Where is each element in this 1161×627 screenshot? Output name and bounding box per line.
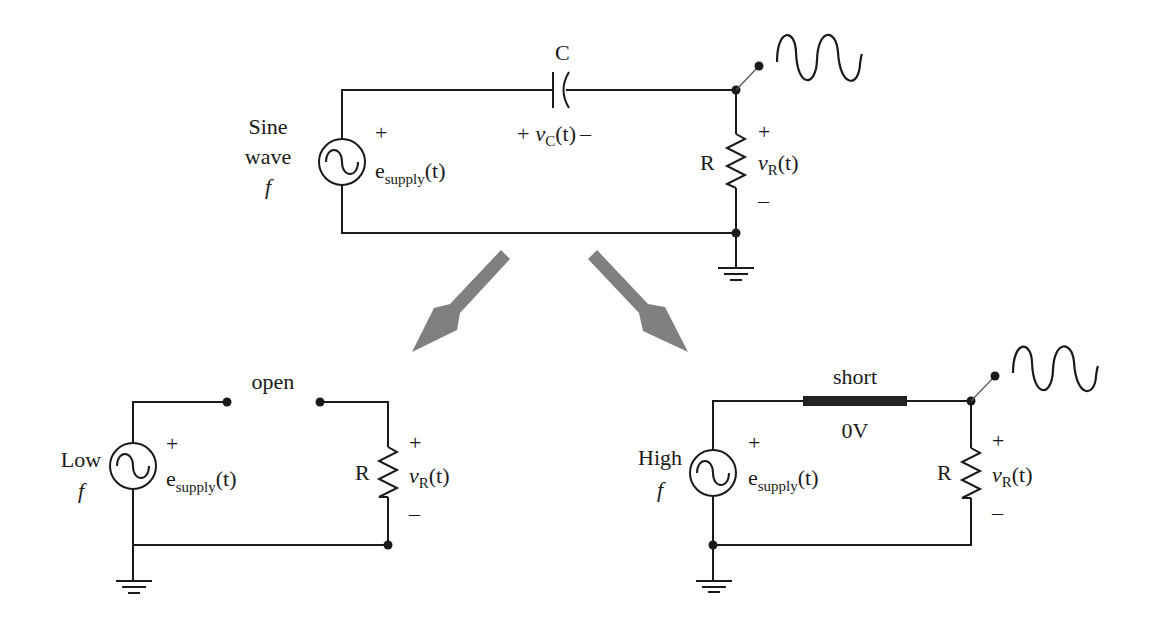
high-top-wire-right bbox=[907, 401, 971, 448]
resistor-icon bbox=[727, 134, 745, 188]
top-circuit: C +vC(t)– Sine wave f + esupply(t) R + v… bbox=[245, 35, 862, 280]
sine-wave-icon bbox=[777, 35, 862, 81]
resistor-label: R bbox=[700, 150, 715, 175]
capacitor-voltage-label: +vC(t)– bbox=[517, 121, 592, 149]
top-wire-right bbox=[566, 90, 736, 134]
source-label-line1: Sine bbox=[248, 114, 287, 139]
resistor-icon bbox=[962, 448, 980, 498]
rc-circuit-diagram: C +vC(t)– Sine wave f + esupply(t) R + v… bbox=[0, 0, 1161, 627]
resistor-minus-sign: – bbox=[991, 500, 1004, 525]
probe-lead bbox=[736, 66, 759, 90]
short-circuit-bar bbox=[803, 396, 907, 406]
ground-icon bbox=[718, 268, 754, 280]
ground-node bbox=[732, 229, 741, 238]
open-terminal-right bbox=[316, 398, 325, 407]
resistor-plus-sign: + bbox=[992, 428, 1004, 453]
sine-wave-icon bbox=[1013, 346, 1098, 391]
resistor-minus-sign: – bbox=[757, 188, 770, 213]
ac-source-icon bbox=[690, 450, 736, 496]
source-voltage-label: esupply(t) bbox=[375, 158, 446, 187]
arrow-down-left-icon bbox=[412, 250, 510, 352]
source-label-line1: High bbox=[638, 445, 682, 470]
resistor-label: R bbox=[355, 460, 370, 485]
resistor-minus-sign: – bbox=[408, 501, 421, 526]
ground-icon bbox=[696, 581, 732, 592]
low-top-wire-right bbox=[320, 402, 388, 447]
low-frequency-circuit: open Low f + esupply(t) R + vR(t) – bbox=[61, 369, 450, 593]
resistor-voltage-label: vR(t) bbox=[758, 150, 799, 178]
open-terminal-left bbox=[223, 398, 232, 407]
source-label-frequency: f bbox=[78, 478, 87, 503]
source-voltage-label: esupply(t) bbox=[748, 465, 819, 494]
open-label: open bbox=[252, 369, 295, 394]
source-label-frequency: f bbox=[657, 477, 666, 502]
source-plus-sign: + bbox=[748, 430, 760, 455]
ground-node bbox=[709, 541, 718, 550]
source-label-line2: wave bbox=[245, 144, 291, 169]
ac-source-icon bbox=[110, 443, 156, 489]
probe-tip bbox=[755, 62, 764, 71]
high-frequency-circuit: short 0V High f + esupply(t) R + vR(t) – bbox=[638, 346, 1098, 592]
low-top-wire-left bbox=[133, 402, 227, 443]
ac-source-icon bbox=[319, 139, 365, 185]
resistor-voltage-label: vR(t) bbox=[409, 463, 450, 491]
capacitor-label: C bbox=[555, 40, 570, 65]
arrow-down-right-icon bbox=[588, 250, 688, 352]
probe-tip bbox=[991, 372, 1000, 381]
transition-arrows bbox=[412, 250, 688, 352]
resistor-icon bbox=[379, 447, 397, 497]
resistor-plus-sign: + bbox=[409, 430, 421, 455]
short-label: short bbox=[833, 364, 877, 389]
source-label-frequency: f bbox=[265, 174, 274, 199]
high-bottom-wire bbox=[713, 498, 971, 545]
resistor-voltage-label: vR(t) bbox=[992, 462, 1033, 490]
ground-icon bbox=[116, 581, 152, 593]
source-plus-sign: + bbox=[375, 120, 387, 145]
bottom-node bbox=[384, 541, 393, 550]
source-label-line1: Low bbox=[61, 447, 101, 472]
zero-volt-label: 0V bbox=[842, 418, 869, 443]
low-bottom-wire bbox=[133, 497, 388, 545]
probe-lead bbox=[971, 376, 995, 401]
resistor-label: R bbox=[937, 460, 952, 485]
source-lower-wire bbox=[342, 185, 736, 233]
resistor-plus-sign: + bbox=[758, 119, 770, 144]
source-plus-sign: + bbox=[166, 431, 178, 456]
source-voltage-label: esupply(t) bbox=[166, 466, 237, 495]
